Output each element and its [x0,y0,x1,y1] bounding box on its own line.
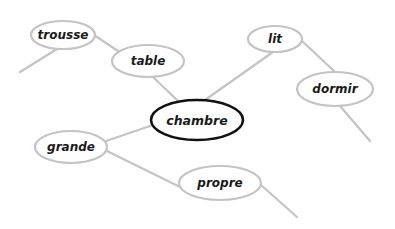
node-lit: lit [248,26,302,52]
edge-propre-stub [261,185,297,217]
node-label: dormir [312,82,358,96]
edge-dormir-stub [340,106,370,141]
edge-lit-chambre [205,52,273,100]
edge-trousse-table [94,35,118,51]
center-node: chambre [151,100,243,140]
node-dormir: dormir [297,72,373,106]
edge-grande-chambre [106,125,153,141]
node-trousse: trousse [31,21,95,49]
edge-grande-propre [107,151,180,187]
edge-trousse-stub [20,49,57,72]
node-propre: propre [179,166,261,200]
node-label: trousse [38,28,89,42]
edge-table-chambre [153,77,178,101]
node-label: lit [268,32,283,46]
node-label: table [131,54,166,68]
node-table: table [112,45,184,77]
node-label: grande [47,140,95,154]
word-web-diagram: troussetablelitdormirgrandepropre chambr… [0,0,395,229]
node-grande: grande [35,131,107,163]
node-label: propre [196,176,242,190]
edge-lit-dormir [301,40,335,72]
center-node-label: chambre [166,113,227,128]
